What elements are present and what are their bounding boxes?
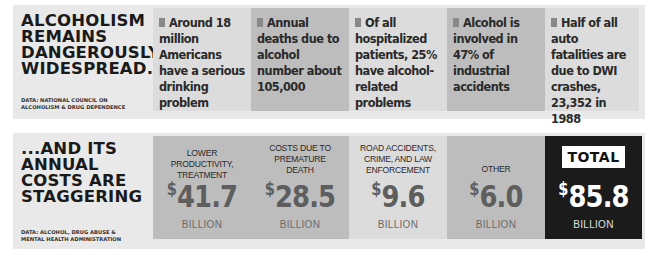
source-line: DATA: NATIONAL COUNCIL ON bbox=[21, 97, 151, 104]
fact-cell: Around 18 million Americans have a serio… bbox=[153, 8, 251, 111]
cost-unit: BILLION bbox=[447, 219, 545, 230]
alcoholism-costs-panel: ...AND ITS ANNUAL COSTS ARE STAGGERING D… bbox=[13, 133, 645, 249]
source-line: ALCOHOLISM & DRUG DEPENDENCE bbox=[21, 104, 151, 111]
square-bullet-icon bbox=[551, 18, 557, 27]
amount: 6.0 bbox=[480, 179, 523, 214]
source-note: DATA: NATIONAL COUNCIL ON ALCOHOLISM & D… bbox=[21, 97, 151, 111]
cost-label: ROAD ACCIDENTS, CRIME, AND LAW ENFORCEME… bbox=[349, 143, 447, 176]
cost-value: $9.6 bbox=[356, 179, 440, 214]
cost-cell: OTHER $6.0 BILLION bbox=[447, 136, 545, 239]
fact-cell: Alcohol is involved in 47% of industrial… bbox=[447, 8, 545, 111]
source-line: DATA: ALCOHOL, DRUG ABUSE & bbox=[21, 229, 151, 236]
currency-symbol: $ bbox=[469, 179, 478, 199]
cost-unit: BILLION bbox=[153, 219, 251, 230]
amount: 9.6 bbox=[382, 179, 425, 214]
amount: 28.5 bbox=[275, 179, 335, 214]
headline-line: WIDESPREAD... bbox=[21, 61, 151, 77]
headline: ALCOHOLISM REMAINS DANGEROUSLY WIDESPREA… bbox=[21, 13, 151, 77]
cost-label: COSTS DUE TO PREMATURE DEATH bbox=[251, 143, 349, 176]
cost-cell: ROAD ACCIDENTS, CRIME, AND LAW ENFORCEME… bbox=[349, 136, 447, 239]
fact-cell: Of all hospitalized patients, 25% have a… bbox=[349, 8, 447, 111]
cost-label: OTHER bbox=[447, 164, 545, 175]
fact-text: Half of all auto fatalities are due to D… bbox=[551, 15, 626, 126]
cost-label: LOWER PRODUCTIVITY, TREATMENT bbox=[153, 148, 251, 181]
total-badge: TOTAL bbox=[562, 146, 625, 168]
fact-text: Annual deaths due to alcohol number abou… bbox=[257, 15, 341, 94]
cost-value: $6.0 bbox=[454, 179, 538, 214]
fact-text: Of all hospitalized patients, 25% have a… bbox=[355, 15, 437, 110]
currency-symbol: $ bbox=[167, 179, 176, 199]
square-bullet-icon bbox=[257, 18, 263, 27]
currency-symbol: $ bbox=[558, 179, 567, 199]
total-cost-cell: TOTAL $85.8 BILLION bbox=[545, 136, 642, 239]
fact-cell: Annual deaths due to alcohol number abou… bbox=[251, 8, 349, 111]
headline-line: STAGGERING bbox=[21, 189, 151, 205]
square-bullet-icon bbox=[453, 18, 459, 27]
cost-cell: COSTS DUE TO PREMATURE DEATH $28.5 BILLI… bbox=[251, 136, 349, 239]
source-note: DATA: ALCOHOL, DRUG ABUSE & MENTAL HEALT… bbox=[21, 229, 151, 243]
amount: 41.7 bbox=[177, 179, 237, 214]
cost-unit: BILLION bbox=[251, 219, 349, 230]
fact-text: Alcohol is involved in 47% of industrial… bbox=[453, 15, 519, 94]
square-bullet-icon bbox=[355, 18, 361, 27]
currency-symbol: $ bbox=[371, 179, 380, 199]
cost-unit: BILLION bbox=[545, 219, 642, 230]
square-bullet-icon bbox=[159, 18, 165, 27]
cost-value: $41.7 bbox=[160, 179, 244, 214]
alcoholism-facts-panel: ALCOHOLISM REMAINS DANGEROUSLY WIDESPREA… bbox=[13, 5, 645, 119]
amount: 85.8 bbox=[568, 179, 628, 214]
fact-text: Around 18 million Americans have a serio… bbox=[159, 15, 245, 110]
cost-value: $28.5 bbox=[258, 179, 342, 214]
source-line: MENTAL HEALTH ADMINISTRATION bbox=[21, 236, 151, 243]
cost-unit: BILLION bbox=[349, 219, 447, 230]
currency-symbol: $ bbox=[265, 179, 274, 199]
headline: ...AND ITS ANNUAL COSTS ARE STAGGERING bbox=[21, 141, 151, 205]
total-value: $85.8 bbox=[552, 179, 635, 214]
cost-cell: LOWER PRODUCTIVITY, TREATMENT $41.7 BILL… bbox=[153, 136, 251, 239]
fact-cell: Half of all auto fatalities are due to D… bbox=[545, 8, 639, 111]
